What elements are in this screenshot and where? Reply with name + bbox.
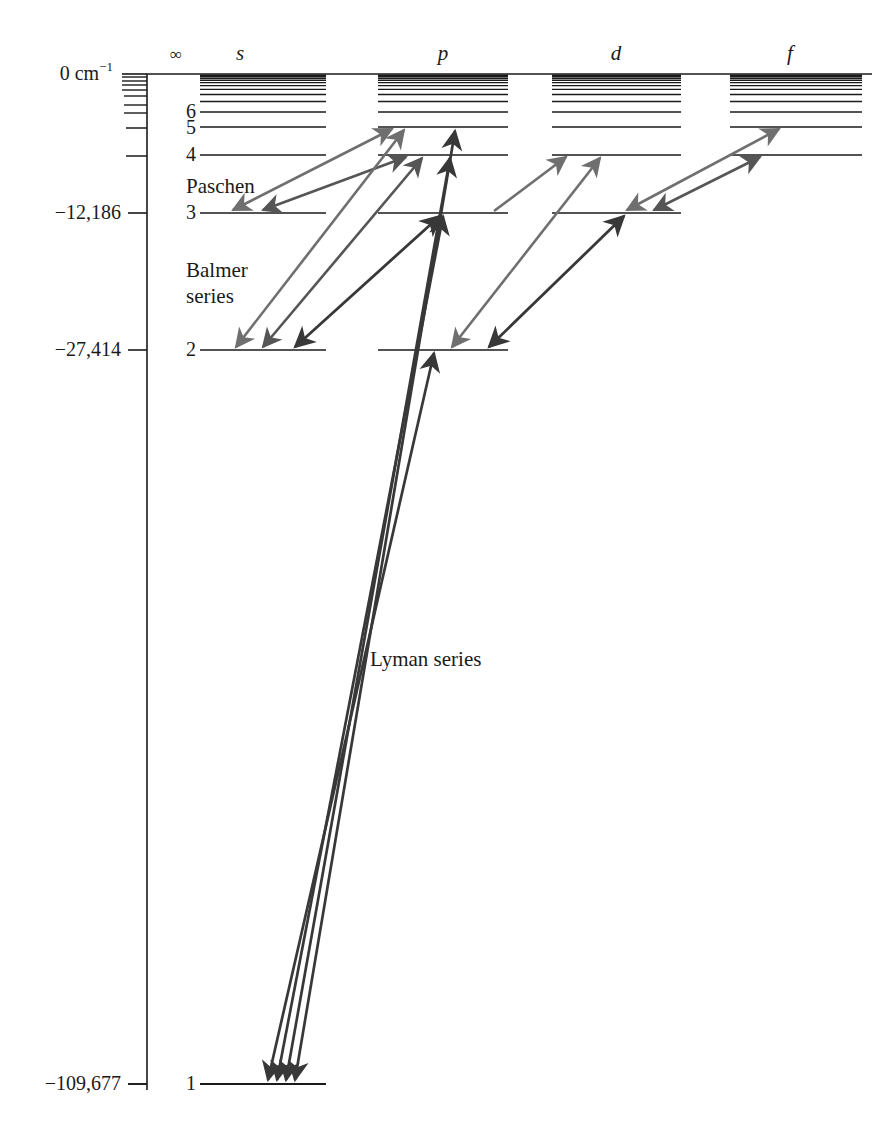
axis-tick-label-27414: −27,414 <box>55 338 121 360</box>
energy-axis: 0 cm−1 −12,186 −27,414 −109,677 <box>45 59 147 1094</box>
series-label-paschen: Paschen <box>186 174 255 198</box>
levels-column-p <box>378 75 508 350</box>
column-header-f: f <box>787 41 796 65</box>
axis-tick-label-109677: −109,677 <box>45 1072 121 1094</box>
level-label-3: 3 <box>186 201 196 223</box>
figure-canvas: 0 cm−1 −12,186 −27,414 −109,677 ∞ s p d … <box>0 0 887 1121</box>
axis-tick-label-0: 0 cm−1 <box>60 59 113 84</box>
transition-paschen-d4-p3 <box>494 157 566 211</box>
column-header-d: d <box>611 41 622 65</box>
level-label-1: 1 <box>186 1072 196 1094</box>
column-header-p: p <box>436 41 449 65</box>
level-label-5: 5 <box>186 116 196 138</box>
axis-minor-ticks <box>122 77 147 156</box>
transition-balmer-p5-s2 <box>236 130 404 347</box>
transition-balmer-d3-p2 <box>489 216 624 347</box>
level-label-4: 4 <box>186 143 196 165</box>
levels-column-s <box>200 75 326 1084</box>
series-label-balmer-line2: series <box>186 284 234 308</box>
level-number-labels: 6 5 4 3 2 1 <box>186 100 196 1094</box>
transition-paschen-p5-s3 <box>233 129 392 210</box>
energy-level-diagram: 0 cm−1 −12,186 −27,414 −109,677 ∞ s p d … <box>0 0 887 1121</box>
level-label-2: 2 <box>186 338 196 360</box>
axis-tick-label-12186: −12,186 <box>55 201 121 223</box>
column-header-s: s <box>236 41 244 65</box>
series-label-balmer-line1: Balmer <box>186 258 248 282</box>
transition-lyman-p2-s1 <box>268 353 434 1080</box>
column-header-infinity: ∞ <box>170 45 182 64</box>
column-headers: ∞ s p d f <box>170 41 796 65</box>
transition-paschen-f4-d3 <box>654 157 760 210</box>
transition-lyman-p4-s1 <box>286 158 450 1080</box>
transition-paschen-f5-d3 <box>627 129 779 210</box>
series-label-lyman: Lyman series <box>370 647 481 671</box>
levels-column-f <box>730 75 862 155</box>
